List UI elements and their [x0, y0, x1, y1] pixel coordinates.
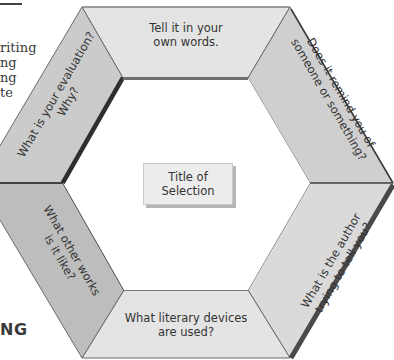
label-bottom-line1: What literary devices: [116, 311, 256, 325]
center-title-box: Title of Selection: [143, 163, 233, 205]
label-bottom-line2: are used?: [116, 325, 256, 339]
center-title-line1: Title of: [162, 170, 215, 184]
label-top-line2: own words.: [136, 35, 236, 49]
center-title-line2: Selection: [162, 184, 215, 198]
hexagon-diagram-stage: riting ng ng te NG Tell it in: [0, 0, 394, 360]
label-bottom: What literary devices are used?: [116, 311, 256, 339]
label-top-line1: Tell it in your: [136, 21, 236, 35]
label-top: Tell it in your own words.: [136, 21, 236, 49]
